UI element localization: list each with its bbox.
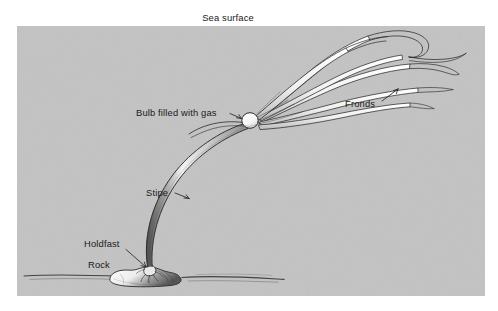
holdfast-label: Holdfast xyxy=(84,238,120,249)
diagram-canvas: Sea surface xyxy=(0,0,498,311)
bulb-label: Bulb filled with gas xyxy=(136,107,217,118)
kelp-diagram-figure: Sea surface xyxy=(0,0,498,311)
bulb-body xyxy=(242,113,258,129)
illustration-panel xyxy=(17,26,485,296)
sea-surface-label: Sea surface xyxy=(202,12,254,23)
rock-label: Rock xyxy=(88,259,110,270)
rock-annotation: Rock xyxy=(88,259,110,270)
fronds-label: Fronds xyxy=(345,98,375,109)
stipe-label: Stipe xyxy=(146,187,168,198)
panel-texture xyxy=(17,26,485,296)
bulb-shape xyxy=(242,113,258,129)
